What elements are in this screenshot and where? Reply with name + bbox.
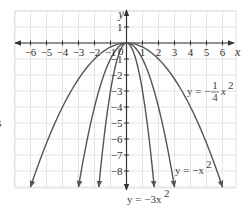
y-tick-label: −8 bbox=[111, 165, 123, 177]
x-tick-label: −5 bbox=[41, 46, 53, 58]
svg-text:1: 1 bbox=[212, 79, 218, 91]
x-axis-label: x bbox=[234, 45, 241, 59]
svg-text:2: 2 bbox=[206, 158, 212, 170]
y-tick-label: −7 bbox=[111, 149, 123, 161]
grid bbox=[15, 11, 237, 188]
y-tick-label: 1 bbox=[117, 21, 123, 33]
svg-text:y = −: y = − bbox=[187, 85, 210, 97]
x-tick-label: −3 bbox=[73, 46, 85, 58]
x-tick-label: 1 bbox=[140, 46, 146, 58]
origin-label: 0 bbox=[118, 45, 124, 57]
axes bbox=[15, 10, 234, 190]
y-tick-label: −5 bbox=[111, 117, 123, 129]
x-tick-label: 6 bbox=[220, 46, 226, 58]
y-tick-label: −3 bbox=[111, 85, 123, 97]
labels: −6−5−4−3−2−11234561−1−2−3−4−5−6−7−80yxy … bbox=[25, 7, 241, 205]
y-tick-label: −6 bbox=[111, 133, 123, 145]
x-tick-label: −6 bbox=[25, 46, 37, 58]
x-tick-label: −2 bbox=[89, 46, 101, 58]
svg-text:y = −3x: y = −3x bbox=[127, 193, 162, 205]
y-tick-label: −2 bbox=[111, 69, 123, 81]
x-tick-label: −4 bbox=[57, 46, 69, 58]
y-axis-label: y bbox=[118, 7, 125, 21]
curve-label-unit: y = −x2 bbox=[175, 158, 212, 176]
x-tick-label: 5 bbox=[204, 46, 210, 58]
x-tick-label: 4 bbox=[188, 46, 194, 58]
x-tick-label: 3 bbox=[172, 46, 178, 58]
curve-series-1 bbox=[127, 43, 175, 187]
svg-text:2: 2 bbox=[164, 187, 170, 199]
curve-series-2 bbox=[127, 43, 155, 187]
x-tick-label: 2 bbox=[156, 46, 162, 58]
svg-text:y = −x: y = −x bbox=[175, 164, 204, 176]
svg-text:4: 4 bbox=[212, 91, 218, 103]
svg-text:2: 2 bbox=[228, 79, 234, 91]
stray-glyph: s bbox=[0, 116, 2, 131]
y-tick-label: −4 bbox=[111, 101, 123, 113]
parabola-chart: −6−5−4−3−2−11234561−1−2−3−4−5−6−7−80yxy … bbox=[0, 0, 248, 215]
svg-text:x: x bbox=[220, 85, 226, 97]
curve-label-triple: y = −3x2 bbox=[127, 187, 170, 205]
